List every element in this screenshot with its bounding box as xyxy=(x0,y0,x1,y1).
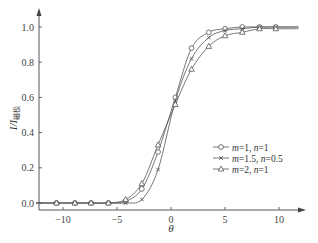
series-line xyxy=(36,25,298,205)
cross-marker-icon xyxy=(207,36,211,40)
x-axis-arrow-icon xyxy=(298,208,306,213)
legend-label: m=2, n=1 xyxy=(232,165,269,175)
y-axis-title: I/I磁极 xyxy=(7,106,21,131)
y-tick-label: 0.2 xyxy=(22,162,35,173)
legend-item: m=1, n=1 xyxy=(213,143,269,153)
circle-marker-icon xyxy=(189,46,194,51)
circle-marker-icon xyxy=(219,145,224,150)
x-tick-label: 5 xyxy=(223,214,228,225)
legend: m=1, n=1m=1.5, n=0.5m=2, n=1 xyxy=(213,143,283,175)
series-curve xyxy=(36,28,298,203)
triangle-marker-icon xyxy=(218,166,224,171)
triangle-marker-icon xyxy=(123,196,129,201)
x-axis-title: θ xyxy=(168,222,174,234)
chart: −10−505100.00.20.40.60.81.0θI/I磁极 m=1, n… xyxy=(0,0,318,243)
series-line xyxy=(36,25,298,206)
series-curve xyxy=(36,27,298,203)
axes: −10−505100.00.20.40.60.81.0θI/I磁极 xyxy=(7,8,306,234)
triangle-marker-icon xyxy=(139,181,145,186)
cross-marker-icon xyxy=(140,198,144,202)
y-tick-label: 0.0 xyxy=(22,198,35,209)
series-curve xyxy=(36,27,298,203)
legend-label: m=1, n=1 xyxy=(232,143,269,153)
triangle-marker-icon xyxy=(189,66,195,71)
circle-marker-icon xyxy=(206,30,211,35)
x-tick-label: 10 xyxy=(274,214,284,225)
circle-marker-icon xyxy=(139,187,144,192)
y-tick-label: 0.4 xyxy=(22,127,35,138)
series-group xyxy=(36,25,298,206)
cross-marker-icon xyxy=(190,57,194,61)
series-line xyxy=(36,26,298,205)
y-axis-arrow-icon xyxy=(37,8,42,16)
triangle-marker-icon xyxy=(155,142,161,147)
legend-item: m=2, n=1 xyxy=(213,165,269,175)
y-tick-label: 0.8 xyxy=(22,57,35,68)
y-tick-label: 1.0 xyxy=(22,22,35,33)
x-tick-label: −10 xyxy=(55,214,71,225)
legend-item: m=1.5, n=0.5 xyxy=(213,154,283,164)
y-tick-label: 0.6 xyxy=(22,92,35,103)
legend-label: m=1.5, n=0.5 xyxy=(232,154,283,164)
circle-marker-icon xyxy=(156,150,161,155)
x-tick-label: −5 xyxy=(112,214,123,225)
